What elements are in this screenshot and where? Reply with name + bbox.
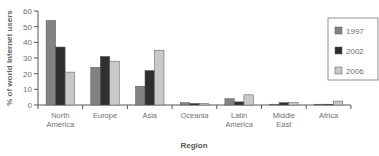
bar <box>199 103 209 105</box>
bar <box>145 71 155 105</box>
bar <box>136 86 146 105</box>
x-tick-label: NorthAmerica <box>47 111 75 129</box>
x-axis: NorthAmericaEuropeAsiaOceaniaLatinAmeric… <box>38 105 351 129</box>
legend-swatch <box>335 47 342 54</box>
bars <box>46 20 343 105</box>
bar <box>65 72 75 105</box>
legend-label: 2006 <box>346 67 364 76</box>
x-tick-label: Oceania <box>180 111 209 120</box>
y-tick-label: 0 <box>28 101 33 110</box>
chart-canvas: 0102030405060 NorthAmericaEuropeAsiaOcea… <box>0 0 379 156</box>
legend-label: 1997 <box>346 27 364 36</box>
legend: 199720022006 <box>328 18 378 80</box>
bar <box>46 20 56 105</box>
bar <box>180 103 190 105</box>
y-tick-label: 60 <box>23 7 32 16</box>
y-tick-label: 50 <box>23 23 32 32</box>
y-axis-label: % of world Internet users <box>5 10 14 106</box>
bar <box>244 95 254 105</box>
bar <box>270 104 280 105</box>
x-tick-label: LatinAmerica <box>225 111 253 129</box>
y-tick-label: 30 <box>23 54 32 63</box>
x-axis-label: Region <box>180 141 207 150</box>
bar <box>56 47 66 105</box>
y-axis: 0102030405060 <box>23 7 38 110</box>
bar-chart: 0102030405060 NorthAmericaEuropeAsiaOcea… <box>0 0 379 156</box>
legend-label: 2002 <box>346 47 364 56</box>
x-tick-label: Europe <box>93 111 117 120</box>
bar <box>324 104 334 105</box>
bar <box>289 103 299 105</box>
bar <box>333 101 343 105</box>
bar <box>110 61 120 105</box>
bar <box>234 102 244 105</box>
y-tick-label: 10 <box>23 85 32 94</box>
x-tick-label: Africa <box>319 111 339 120</box>
bar <box>190 103 200 105</box>
bar <box>279 103 289 105</box>
bar <box>225 99 235 105</box>
bar <box>314 104 324 105</box>
x-tick-label: Asia <box>142 111 157 120</box>
bar <box>91 67 101 105</box>
x-tick-label: MiddleEast <box>273 111 295 129</box>
y-tick-label: 40 <box>23 38 32 47</box>
bar <box>155 50 165 105</box>
legend-swatch <box>335 27 342 34</box>
bar <box>100 56 110 105</box>
legend-swatch <box>335 67 342 74</box>
y-tick-label: 20 <box>23 70 32 79</box>
